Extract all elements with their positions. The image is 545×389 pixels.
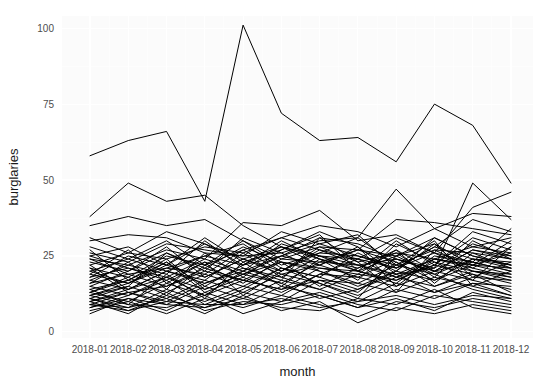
y-tick-label: 100 xyxy=(37,23,54,34)
y-tick-label: 75 xyxy=(43,99,55,110)
x-axis-title: month xyxy=(279,364,315,379)
x-tick-label: 2018-07 xyxy=(301,344,338,355)
x-tick-label: 2018-02 xyxy=(110,344,147,355)
x-tick-label: 2018-01 xyxy=(72,344,109,355)
x-tick-label: 2018-06 xyxy=(263,344,300,355)
y-tick-label: 0 xyxy=(48,326,54,337)
y-tick-label: 25 xyxy=(43,250,55,261)
x-tick-label: 2018-09 xyxy=(378,344,415,355)
x-tick-label: 2018-08 xyxy=(340,344,377,355)
y-axis-title: burglaries xyxy=(6,148,21,206)
x-tick-label: 2018-05 xyxy=(225,344,262,355)
x-tick-label: 2018-04 xyxy=(186,344,223,355)
x-tick-label: 2018-11 xyxy=(455,344,491,355)
chart-figure: 0255075100 2018-012018-022018-032018-042… xyxy=(0,0,545,389)
x-tick-label: 2018-03 xyxy=(148,344,185,355)
x-tick-label: 2018-10 xyxy=(416,344,453,355)
x-axis-tick-labels: 2018-012018-022018-032018-042018-052018-… xyxy=(72,344,530,355)
x-tick-label: 2018-12 xyxy=(493,344,530,355)
line-chart-svg: 0255075100 2018-012018-022018-032018-042… xyxy=(0,0,545,389)
y-tick-label: 50 xyxy=(43,175,55,186)
